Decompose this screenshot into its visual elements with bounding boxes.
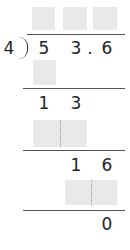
remainder-2-digit-2: 6 [100, 155, 114, 175]
quotient-box-1[interactable] [32, 7, 55, 30]
divisor: 4 [2, 38, 16, 58]
dividend-digit-1: 5 [37, 38, 51, 58]
dividend-digit-2: 3 [69, 38, 83, 58]
quotient-box-3[interactable] [93, 7, 117, 30]
remainder-1-digit-2: 3 [69, 93, 83, 113]
remainder-2-digit-1: 1 [69, 155, 83, 175]
quotient-box-2[interactable] [63, 7, 87, 30]
final-remainder: 0 [100, 214, 114, 234]
division-bar [27, 34, 125, 35]
subtract-line-3 [23, 210, 125, 211]
subtract-line-2 [23, 150, 125, 151]
subtract-box-1[interactable] [33, 60, 56, 85]
remainder-1-digit-1: 1 [37, 93, 51, 113]
dividend-point: . [83, 38, 97, 58]
division-bracket [19, 37, 28, 59]
subtract-line-1 [23, 88, 125, 89]
dividend-digit-3: 6 [100, 38, 114, 58]
subtract-box-2[interactable] [33, 120, 87, 147]
subtract-box-3[interactable] [65, 180, 117, 205]
